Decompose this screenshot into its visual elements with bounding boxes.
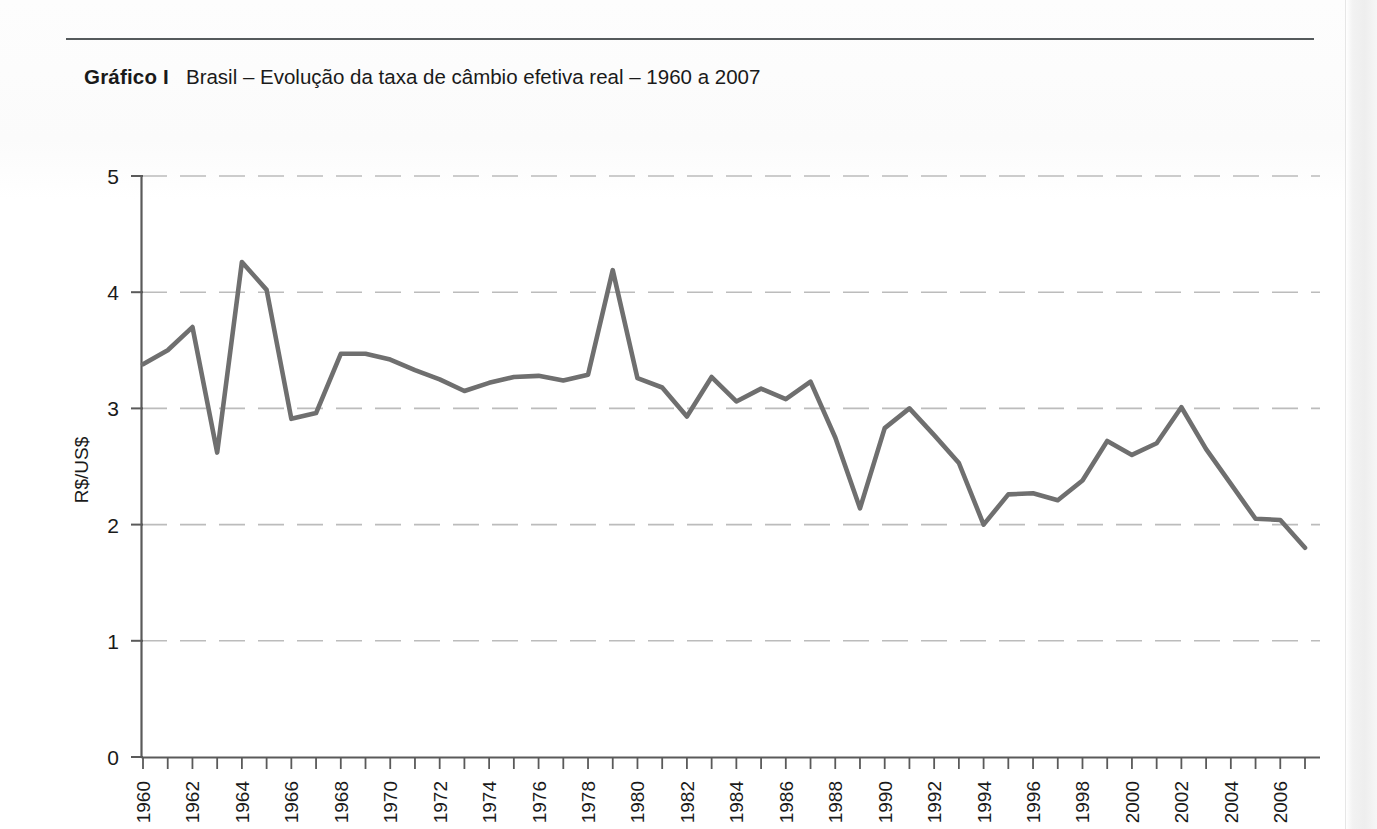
y-tick-label: 1: [107, 630, 119, 653]
x-tick-label: 1974: [479, 781, 500, 824]
data-series-line: [143, 262, 1305, 548]
y-tick-label: 4: [107, 281, 119, 304]
x-tick-label: 1996: [1023, 781, 1044, 823]
x-tick-label: 1994: [974, 781, 995, 824]
chart-svg: 012345 196019621964196619681970197219741…: [0, 0, 1377, 829]
y-axis-label: R$/US$: [71, 436, 92, 503]
x-tick-label: 1970: [380, 781, 401, 823]
x-tick-label: 1968: [331, 781, 352, 823]
x-tick-label: 1960: [133, 781, 154, 823]
x-tick-label: 1980: [627, 781, 648, 823]
x-tick-label: 1982: [677, 781, 698, 823]
x-tick-label: 2002: [1171, 781, 1192, 823]
x-tick-label: 1998: [1072, 781, 1093, 823]
x-tick-label: 2000: [1122, 781, 1143, 823]
x-tick-label: 1964: [232, 781, 253, 824]
x-tick-label: 2004: [1221, 781, 1242, 824]
x-tick-label: 1976: [529, 781, 550, 823]
y-tick-label: 2: [107, 514, 119, 537]
x-tick-label: 1986: [776, 781, 797, 823]
x-tick-label: 2006: [1270, 781, 1291, 823]
y-tick-label: 0: [107, 746, 119, 769]
y-tick-label: 3: [107, 397, 119, 420]
x-tick-label: 1972: [430, 781, 451, 823]
x-tick-label: 1992: [924, 781, 945, 823]
x-tick-label: 1990: [875, 781, 896, 823]
x-tick-label: 1978: [578, 781, 599, 823]
x-tick-label: 1984: [726, 781, 747, 824]
x-tick-label: 1962: [182, 781, 203, 823]
line-chart: 012345 196019621964196619681970197219741…: [0, 0, 1377, 829]
x-tick-label: 1966: [281, 781, 302, 823]
x-axis-ticks: 1960196219641966196819701972197419761978…: [133, 757, 1305, 823]
x-tick-label: 1988: [825, 781, 846, 823]
y-tick-label: 5: [107, 165, 119, 188]
y-axis-ticks: 012345: [107, 165, 143, 769]
